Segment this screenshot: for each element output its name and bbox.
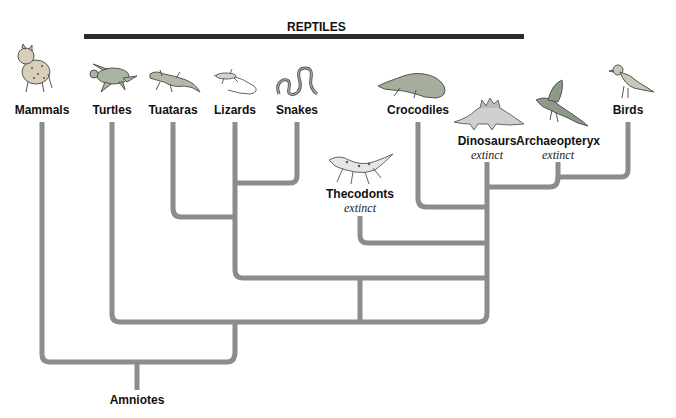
stegosaurus-icon xyxy=(452,96,526,132)
taxon-label-snakes: Snakes xyxy=(276,103,318,117)
taxon-label-dinosaurs: Dinosaurs xyxy=(458,134,517,148)
root-label-amniotes: Amniotes xyxy=(110,393,165,407)
turtle-icon xyxy=(85,62,140,94)
snake-icon xyxy=(273,64,323,98)
taxon-label-thecodonts: Thecodonts xyxy=(326,187,394,201)
archaeopteryx-icon xyxy=(530,78,592,130)
lynx-icon xyxy=(14,44,56,94)
taxon-status-dinosaurs: extinct xyxy=(471,148,503,163)
crocodile-icon xyxy=(376,64,450,102)
taxon-label-turtles: Turtles xyxy=(92,103,131,117)
taxon-label-birds: Birds xyxy=(613,103,644,117)
taxon-status-thecodonts: extinct xyxy=(344,201,376,216)
tuatara-icon xyxy=(146,66,202,96)
taxon-label-lizards: Lizards xyxy=(214,103,256,117)
taxon-label-mammals: Mammals xyxy=(15,103,70,117)
taxon-status-archaeopteryx: extinct xyxy=(542,148,574,163)
taxon-label-crocodiles: Crocodiles xyxy=(387,103,449,117)
taxon-label-tuataras: Tuataras xyxy=(148,103,197,117)
thecodont-icon xyxy=(325,150,395,188)
taxon-label-archaeopteryx: Archaeopteryx xyxy=(516,134,600,148)
lizard-icon xyxy=(210,66,262,98)
bird-icon xyxy=(608,62,656,102)
